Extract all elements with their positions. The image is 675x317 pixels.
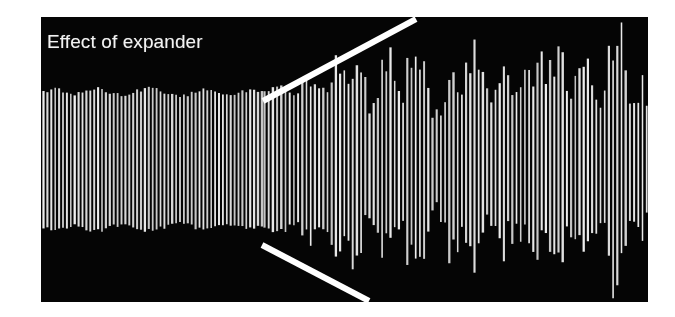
expander-waveform-figure: Effect of expander bbox=[0, 0, 675, 317]
waveform-trace-canvas bbox=[41, 17, 648, 302]
figure-caption: Effect of expander bbox=[47, 31, 203, 53]
waveform-panel bbox=[41, 17, 648, 302]
